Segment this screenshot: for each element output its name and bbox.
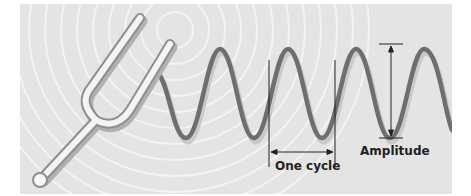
one-cycle-label: One cycle: [275, 159, 340, 173]
diagram-canvas: [20, 4, 452, 194]
tuning-fork: [33, 18, 172, 187]
tuning-fork-knob: [33, 173, 47, 187]
diagram-panel: One cycle Amplitude: [20, 4, 452, 194]
amplitude-label: Amplitude: [360, 144, 430, 158]
